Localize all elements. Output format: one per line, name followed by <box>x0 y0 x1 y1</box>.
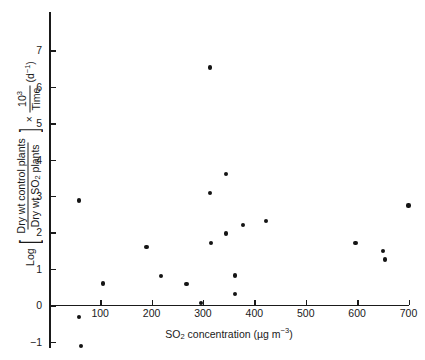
x-tick-400 <box>254 300 255 305</box>
x-tick-label-100: 100 <box>80 308 120 319</box>
data-point <box>208 191 212 195</box>
data-point <box>77 315 81 319</box>
data-point <box>101 281 105 285</box>
x-tick-label-300: 300 <box>183 308 223 319</box>
y-axis-title-denominator-sub: 2 <box>33 175 42 179</box>
x-tick-label-700: 700 <box>389 308 425 319</box>
y-axis-title-rate-base: 10 <box>16 95 28 107</box>
y-tick-label-0: 0 <box>30 300 42 310</box>
x-tick-label-600: 600 <box>337 308 377 319</box>
x-tick-600 <box>357 300 358 305</box>
x-tick-label-200: 200 <box>132 308 172 319</box>
x-axis-title-species: SO <box>165 328 180 340</box>
y-axis-title-rate-numerator: 103 <box>16 89 30 109</box>
y-tick-4 <box>51 160 56 161</box>
y-axis-title-unit: (d−1) <box>22 61 36 82</box>
multiply-icon: × <box>24 115 35 123</box>
x-axis-title: SO2 concentration (µg m−3) <box>49 326 409 341</box>
y-axis-title-rate-denominator: Time <box>29 86 42 113</box>
x-axis-title-rest: concentration ( <box>185 328 257 340</box>
y-axis-title-rate-exponent: 3 <box>15 91 24 95</box>
x-tick-700 <box>409 300 410 305</box>
data-point <box>224 172 228 176</box>
x-tick-label-400: 400 <box>234 308 274 319</box>
data-point <box>184 282 188 286</box>
y-axis-title-log: Log <box>23 248 35 266</box>
data-point <box>233 273 237 277</box>
data-point <box>233 292 237 296</box>
y-axis-title-unit-close: ) <box>24 61 36 65</box>
data-point <box>381 249 385 253</box>
y-tick-0 <box>51 305 56 306</box>
y-axis-title-denominator-b: plants <box>28 144 40 175</box>
data-point <box>224 231 228 235</box>
x-axis-title-close-paren: ) <box>289 328 293 340</box>
data-point <box>159 274 163 278</box>
x-axis-title-unit-exponent: −3 <box>281 326 290 335</box>
y-tick-label--1: −1 <box>30 337 42 347</box>
bracket-close-icon: ] <box>17 128 42 132</box>
y-axis-title-unit-open: (d <box>24 73 36 82</box>
y-tick-3 <box>51 196 56 197</box>
x-tick-label-500: 500 <box>286 308 326 319</box>
y-tick-1 <box>51 269 56 270</box>
x-tick-500 <box>306 300 307 305</box>
data-point <box>406 203 410 207</box>
x-axis-title-unit: µg m <box>257 328 281 340</box>
data-point <box>264 219 268 223</box>
y-tick-6 <box>51 87 56 88</box>
x-tick-100 <box>100 300 101 305</box>
x-tick-300 <box>203 300 204 305</box>
y-axis-title-rate: 103 Time <box>16 86 43 113</box>
y-axis-title: Log [ Dry wt control plants Dry wt SO2 p… <box>16 39 43 289</box>
y-axis-line <box>49 12 51 348</box>
y-tick-2 <box>51 232 56 233</box>
bracket-open-icon: [ <box>17 240 42 244</box>
y-axis-title-unit-exponent: −1 <box>22 65 31 74</box>
y-axis-title-ratio: Dry wt control plants Dry wt SO2 plants <box>16 136 43 235</box>
data-point <box>77 198 81 202</box>
y-tick-7 <box>51 50 56 51</box>
y-tick-5 <box>51 123 56 124</box>
y-axis-title-denominator: Dry wt SO2 plants <box>28 142 43 229</box>
x-tick-200 <box>152 300 153 305</box>
scatter-chart: −101234567 100200300400500600700 SO2 con… <box>0 0 425 360</box>
y-axis-title-denominator-a: Dry wt SO <box>28 179 40 227</box>
data-point <box>209 241 213 245</box>
data-point <box>241 223 245 227</box>
data-point <box>144 245 148 249</box>
y-tick--1 <box>51 342 56 343</box>
data-point <box>383 257 387 261</box>
x-axis-line <box>49 305 409 307</box>
data-point <box>208 65 212 69</box>
data-point <box>199 301 203 305</box>
data-point <box>79 344 83 348</box>
y-axis-title-numerator: Dry wt control plants <box>16 136 28 235</box>
data-point <box>353 241 357 245</box>
